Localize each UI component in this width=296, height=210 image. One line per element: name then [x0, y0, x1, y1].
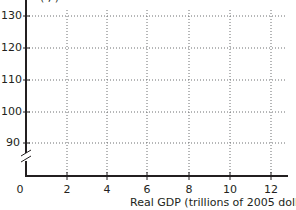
y-tick-label-110: 110: [0, 74, 22, 86]
horizontal-gridlines: [26, 16, 286, 143]
x-tick-label-12: 12: [261, 184, 281, 196]
x-tick-label-0: 0: [10, 184, 30, 196]
x-tick-label-2: 2: [57, 184, 77, 196]
x-tick-label-8: 8: [179, 184, 199, 196]
x-tick-label-6: 6: [137, 184, 157, 196]
x-axis-label: Real GDP (trillions of 2005 dollars): [130, 196, 296, 209]
y-tick-label-130: 130: [0, 10, 22, 22]
chart: ( , ) 130 120 110 100 90 0 2 4 6 8 10 12…: [0, 0, 296, 210]
x-tick-label-4: 4: [97, 184, 117, 196]
y-tick-label-90: 90: [0, 137, 20, 149]
chart-grid: [0, 0, 296, 210]
y-tick-label-100: 100: [0, 106, 22, 118]
chart-title-clipped: ( , ): [40, 0, 59, 4]
x-tick-label-10: 10: [220, 184, 240, 196]
y-tick-label-120: 120: [0, 42, 22, 54]
vertical-gridlines: [67, 10, 271, 176]
